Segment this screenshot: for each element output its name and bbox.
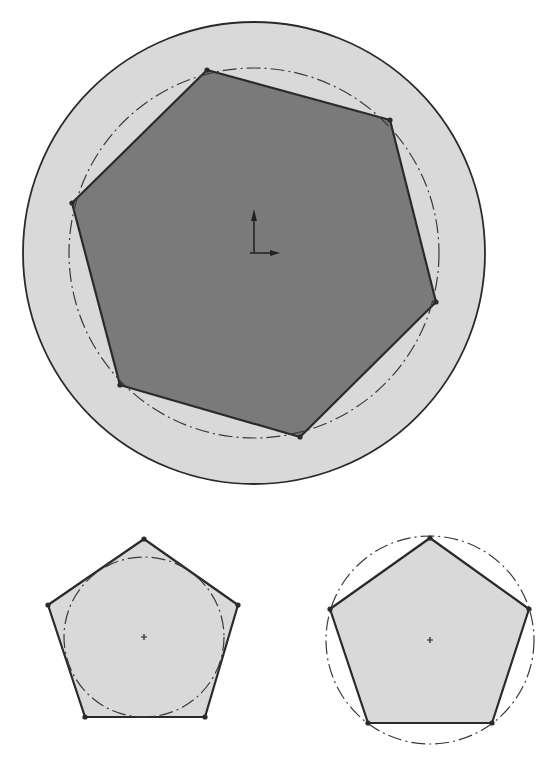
- hexagon-in-circle-group: [23, 22, 485, 484]
- sketch-canvas: [0, 0, 550, 760]
- pentagon-right[interactable]: [330, 538, 529, 723]
- vertex-point[interactable]: [204, 67, 209, 72]
- vertex-point[interactable]: [117, 382, 122, 387]
- vertex-point[interactable]: [365, 720, 370, 725]
- pentagon-inscribed-group: [45, 536, 240, 719]
- sketch-svg: [0, 0, 550, 760]
- vertex-point[interactable]: [433, 299, 438, 304]
- pentagon-circumscribed-group: [326, 535, 534, 744]
- vertex-point[interactable]: [427, 535, 432, 540]
- vertex-point[interactable]: [387, 117, 392, 122]
- pentagon-left[interactable]: [48, 539, 238, 717]
- vertex-point[interactable]: [202, 714, 207, 719]
- vertex-point[interactable]: [235, 602, 240, 607]
- vertex-point[interactable]: [45, 602, 50, 607]
- vertex-point[interactable]: [327, 606, 332, 611]
- vertex-point[interactable]: [489, 720, 494, 725]
- vertex-point[interactable]: [297, 434, 302, 439]
- vertex-point[interactable]: [526, 606, 531, 611]
- vertex-point[interactable]: [69, 200, 74, 205]
- vertex-point[interactable]: [141, 536, 146, 541]
- vertex-point[interactable]: [82, 714, 87, 719]
